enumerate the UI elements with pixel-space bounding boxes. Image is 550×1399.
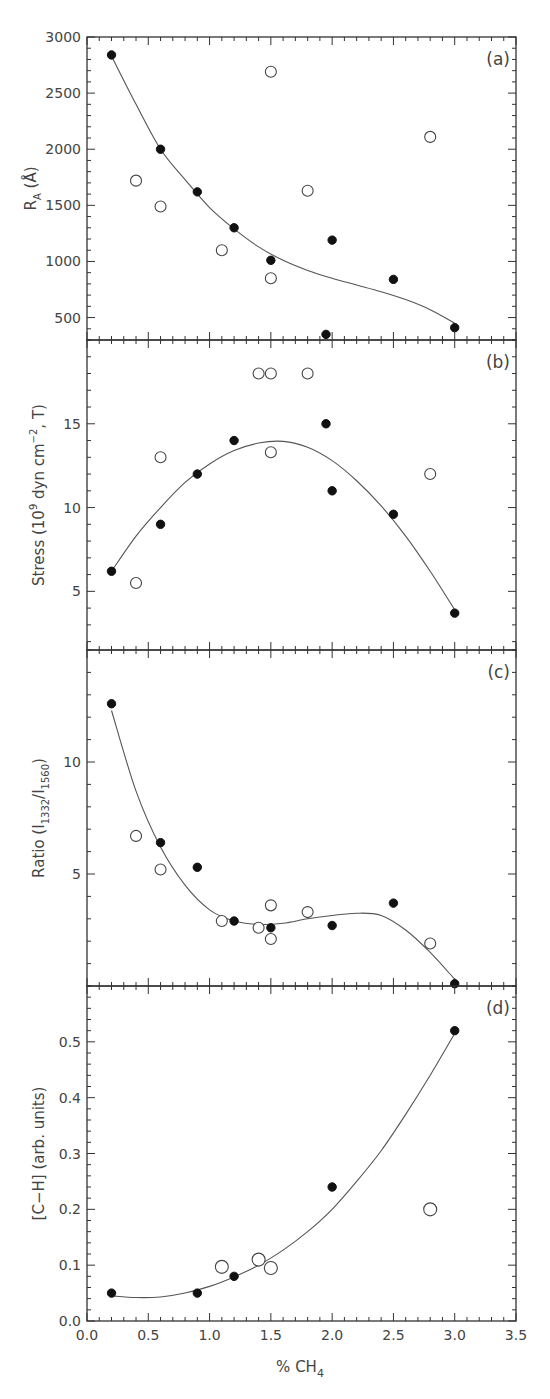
panel-label: (b) xyxy=(486,352,510,372)
plot-frame xyxy=(87,340,516,650)
open-circle-marker xyxy=(302,907,313,918)
filled-circle-marker xyxy=(389,899,397,907)
panel-label: (d) xyxy=(486,998,510,1018)
open-circle-marker xyxy=(265,447,276,458)
y-tick-label: 1000 xyxy=(45,253,81,269)
series-filled xyxy=(107,1026,459,1297)
open-circle-marker xyxy=(155,452,166,463)
open-circle-marker xyxy=(302,185,313,196)
x-tick-label: 3.0 xyxy=(444,1327,466,1343)
x-tick-label: 0.5 xyxy=(137,1327,159,1343)
filled-circle-marker xyxy=(193,470,201,478)
x-tick-label: 0.0 xyxy=(76,1327,98,1343)
open-circle-marker xyxy=(131,175,142,186)
filled-circle-marker xyxy=(328,1183,336,1191)
y-tick-label: 10 xyxy=(63,754,81,770)
panel-label: (a) xyxy=(486,49,510,69)
filled-circle-marker xyxy=(193,1289,201,1297)
y-tick-label: 1500 xyxy=(45,197,81,213)
open-circle-marker xyxy=(425,469,436,480)
filled-circle-marker xyxy=(389,275,397,283)
x-tick-labels: 0.00.51.01.52.02.53.03.5 xyxy=(76,1327,527,1343)
filled-circle-marker xyxy=(322,420,330,428)
y-tick-label: 10 xyxy=(63,500,81,516)
filled-circle-marker xyxy=(107,51,115,59)
x-axis: 0.00.51.01.52.02.53.03.5 % CH4 xyxy=(76,1327,527,1380)
series-filled xyxy=(107,700,459,988)
open-circle-marker xyxy=(155,864,166,875)
y-tick-label: 5 xyxy=(72,583,81,599)
filled-circle-marker xyxy=(267,256,275,264)
filled-circle-marker xyxy=(328,236,336,244)
panel-b: 51015(b)Stress (109 dyn cm−2, T) xyxy=(28,340,516,650)
panel-a: 50010001500200025003000(a)RA (Å) xyxy=(21,29,516,340)
y-tick-label: 0.4 xyxy=(59,1090,81,1106)
y-tick-label: 0.2 xyxy=(59,1201,81,1217)
filled-circle-marker xyxy=(451,323,459,331)
series-filled xyxy=(107,420,459,618)
stacked-scatter-chart: 50010001500200025003000(a)RA (Å)51015(b)… xyxy=(0,0,550,1399)
y-tick-label: 3000 xyxy=(45,29,81,45)
open-circle-marker xyxy=(265,66,276,77)
panel-d: 0.00.10.20.30.40.5(d)[C−H] (arb. units) xyxy=(30,986,516,1329)
filled-circle-marker xyxy=(328,921,336,929)
filled-circle-marker xyxy=(156,520,164,528)
filled-circle-marker xyxy=(107,1289,115,1297)
y-tick-label: 2500 xyxy=(45,85,81,101)
filled-circle-marker xyxy=(156,145,164,153)
open-circle-marker xyxy=(215,1260,228,1273)
y-tick-label: 0.3 xyxy=(59,1146,81,1162)
open-circle-marker xyxy=(265,933,276,944)
y-axis-label: Stress (109 dyn cm−2, T) xyxy=(28,404,48,586)
fit-curve xyxy=(112,56,455,323)
filled-circle-marker xyxy=(230,1272,238,1280)
plot-frame xyxy=(87,986,516,1321)
open-circle-marker xyxy=(302,368,313,379)
panel-c: 510(c)Ratio (I1332/I1560) xyxy=(30,650,516,988)
y-tick-label: 500 xyxy=(54,310,81,326)
open-circle-marker xyxy=(131,577,142,588)
open-circle-marker xyxy=(253,368,264,379)
open-circle-marker xyxy=(425,131,436,142)
x-tick-label: 1.5 xyxy=(260,1327,282,1343)
filled-circle-marker xyxy=(230,224,238,232)
x-axis-label: % CH4 xyxy=(276,1358,324,1380)
series-open xyxy=(131,66,436,283)
series-filled xyxy=(107,51,459,339)
filled-circle-marker xyxy=(156,838,164,846)
open-circle-marker xyxy=(265,368,276,379)
filled-circle-marker xyxy=(328,487,336,495)
open-circle-marker xyxy=(425,938,436,949)
open-circle-marker xyxy=(252,1253,265,1266)
y-tick-label: 15 xyxy=(63,416,81,432)
filled-circle-marker xyxy=(193,863,201,871)
open-circle-marker xyxy=(253,922,264,933)
x-tick-label: 1.0 xyxy=(198,1327,220,1343)
open-circle-marker xyxy=(264,1261,277,1274)
filled-circle-marker xyxy=(107,567,115,575)
series-open xyxy=(215,1203,436,1275)
x-tick-label: 2.5 xyxy=(382,1327,404,1343)
filled-circle-marker xyxy=(230,917,238,925)
filled-circle-marker xyxy=(193,188,201,196)
series-open xyxy=(131,830,436,949)
filled-circle-marker xyxy=(389,510,397,518)
open-circle-marker xyxy=(424,1203,437,1216)
plot-frame xyxy=(87,650,516,986)
x-tick-label: 2.0 xyxy=(321,1327,343,1343)
y-tick-label: 0.5 xyxy=(59,1034,81,1050)
panels: 50010001500200025003000(a)RA (Å)51015(b)… xyxy=(21,29,516,1329)
y-tick-label: 0.1 xyxy=(59,1257,81,1273)
filled-circle-marker xyxy=(322,330,330,338)
open-circle-marker xyxy=(265,273,276,284)
open-circle-marker xyxy=(216,916,227,927)
y-axis-label: [C−H] (arb. units) xyxy=(30,1087,48,1221)
y-tick-label: 5 xyxy=(72,866,81,882)
series-open xyxy=(131,368,436,588)
plot-frame xyxy=(87,37,516,340)
chart-canvas: 50010001500200025003000(a)RA (Å)51015(b)… xyxy=(0,0,550,1399)
panel-label: (c) xyxy=(487,662,510,682)
open-circle-marker xyxy=(131,830,142,841)
open-circle-marker xyxy=(155,201,166,212)
y-tick-label: 2000 xyxy=(45,141,81,157)
